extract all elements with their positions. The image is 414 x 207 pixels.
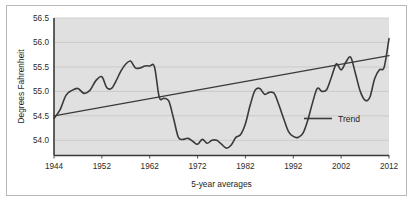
plot-area-background — [54, 18, 389, 155]
y-axis-title: Degrees Fahrenheit — [16, 49, 26, 124]
x-axis-title: 5-year averages — [191, 179, 252, 189]
y-tick-labels: 54.054.555.055.556.056.5 — [33, 14, 49, 145]
x-tick-label: 1972 — [188, 162, 207, 171]
y-tick-label: 54.5 — [33, 112, 49, 121]
x-tick-labels: 19441952196219721982199220022012 — [45, 162, 399, 171]
x-tick-label: 2012 — [380, 162, 399, 171]
temperature-trend-chart: 54.054.555.055.556.056.5 194419521962197… — [7, 6, 408, 197]
x-tick-label: 1952 — [93, 162, 112, 171]
x-tick-label: 1982 — [236, 162, 255, 171]
x-tick-label: 1944 — [45, 162, 64, 171]
legend-label-trend: Trend — [338, 114, 360, 124]
y-tick-label: 55.0 — [33, 87, 49, 96]
x-tick-label: 1992 — [284, 162, 303, 171]
y-tick-label: 56.5 — [33, 14, 49, 23]
chart-figure: 54.054.555.055.556.056.5 194419521962197… — [0, 0, 414, 207]
y-tick-label: 54.0 — [33, 136, 49, 145]
y-tick-label: 55.5 — [33, 63, 49, 72]
y-tick-label: 56.0 — [33, 38, 49, 47]
x-tick-label: 2002 — [332, 162, 351, 171]
x-tick-label: 1962 — [141, 162, 160, 171]
chart-card: 54.054.555.055.556.056.5 194419521962197… — [6, 5, 407, 196]
